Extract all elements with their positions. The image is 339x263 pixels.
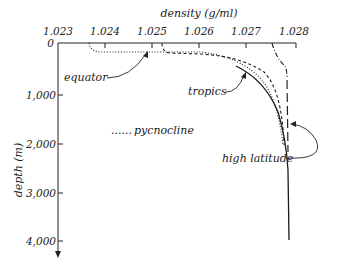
- equator-pointer: [107, 54, 146, 78]
- density-depth-chart: density (g/ml) 1.023 1.024 1.025 1.026 1…: [0, 0, 339, 263]
- x-tick-1.027: 1.027: [231, 25, 261, 37]
- pycnocline-legend-label: pycnocline: [134, 124, 194, 137]
- high-latitude-curve: [287, 80, 288, 152]
- x-tick-1.025: 1.025: [137, 25, 167, 37]
- x-tick-labels: 1.023 1.024 1.025 1.026 1.027 1.028: [43, 25, 309, 37]
- x-tick-1.023: 1.023: [43, 25, 73, 37]
- pycnocline-legend-marker: ......: [111, 124, 132, 137]
- x-axis-title: density (g/ml): [160, 7, 237, 20]
- y-tick-4000: 4,000: [25, 235, 56, 247]
- x-tick-1.028: 1.028: [279, 25, 309, 37]
- high-latitude-arrowhead-icon: [290, 121, 296, 127]
- y-tick-2000: 2,000: [25, 138, 56, 150]
- x-tick-1.026: 1.026: [184, 25, 214, 37]
- y-tick-0: 0: [47, 37, 54, 49]
- x-axis: [58, 43, 296, 48]
- tropics-label: tropics: [188, 85, 227, 98]
- y-tick-3000: 3,000: [26, 187, 56, 199]
- y-axis: [58, 43, 63, 252]
- equator-label: equator: [64, 71, 108, 84]
- tropics-pointer: [226, 75, 244, 92]
- x-tick-1.024: 1.024: [90, 25, 120, 37]
- y-axis-title: depth (m): [12, 143, 25, 198]
- high-latitude-label: high latitude: [222, 152, 294, 165]
- y-tick-1000: 1,000: [26, 89, 56, 101]
- high-latitude-top: [272, 43, 287, 78]
- y-tick-labels: 0 1,000 2,000 3,000 4,000: [25, 37, 56, 247]
- tropics-arrowhead-icon: [241, 72, 246, 79]
- y-axis-arrow-icon: [55, 251, 61, 258]
